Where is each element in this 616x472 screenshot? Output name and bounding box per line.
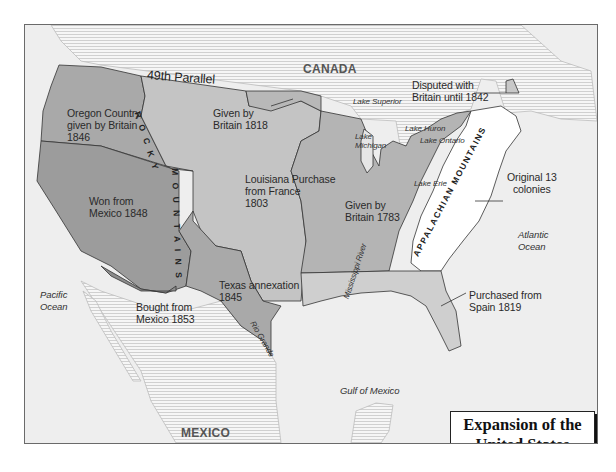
lake-michigan-label: Lake Michigan (355, 132, 386, 150)
map-title-box: Expansion of the United States (450, 411, 595, 444)
yucatan (351, 403, 393, 443)
gadsden-label: Bought from Mexico 1853 (136, 301, 194, 325)
map-title-line1: Expansion of the (451, 415, 594, 435)
pacific-ocean-label: Pacific Ocean (40, 289, 68, 313)
louisiana-label: Louisiana Purchase from France 1803 (245, 173, 335, 209)
lake-huron-label: Lake Huron (405, 124, 445, 133)
florida-territory (301, 271, 461, 351)
map-title-line2: United States (451, 435, 594, 444)
lake-erie-label: Lake Erie (414, 179, 447, 188)
oregon-label: Oregon Country, given by Britain 1846 (67, 107, 142, 143)
texas-label: Texas annexation 1845 (219, 279, 299, 303)
mexico-1848-label: Won from Mexico 1848 (89, 195, 147, 219)
map-graphic (25, 25, 597, 443)
florida-label: Purchased from Spain 1819 (469, 289, 542, 313)
mexico-label: MEXICO (181, 427, 230, 439)
lake-superior-label: Lake Superior (353, 97, 402, 106)
atlantic-ocean-label: Atlantic Ocean (518, 229, 548, 253)
lake-ontario-label: Lake Ontario (420, 136, 465, 145)
colonies-label: Original 13 colonies (507, 171, 557, 195)
britain-1783-label: Given by Britain 1783 (345, 199, 400, 223)
gulf-of-mexico-label: Gulf of Mexico (340, 385, 399, 397)
map-frame: 49th Parallel CANADA Oregon Country, giv… (24, 24, 598, 444)
canada-label: CANADA (303, 63, 357, 75)
britain-1818-label: Given by Britain 1818 (213, 107, 268, 131)
maine-label: Disputed with Britain until 1842 (412, 79, 488, 103)
